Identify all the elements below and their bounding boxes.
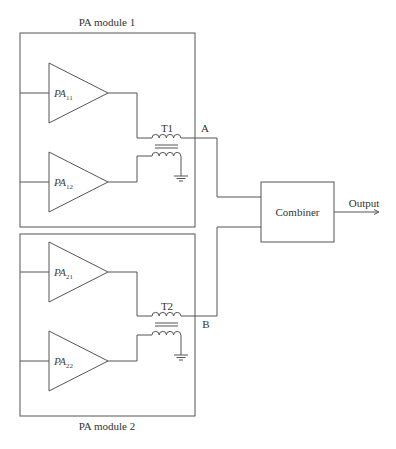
primary-coil-icon xyxy=(152,134,181,138)
pa22-label: PA22 xyxy=(53,355,74,370)
module-1-label: PA module 1 xyxy=(79,16,135,28)
wire-b-to-combiner xyxy=(217,227,261,316)
t2-label: T2 xyxy=(161,300,173,312)
module-2-box xyxy=(20,234,195,416)
pa-combiner-diagram: PA module 1 PA11 PA12 T1 xyxy=(0,0,396,449)
pa-module-1: PA module 1 PA11 PA12 T1 xyxy=(20,16,217,227)
combiner-label: Combiner xyxy=(276,206,320,218)
amplifier-pa22: PA22 xyxy=(49,331,108,391)
ground-icon xyxy=(174,355,188,360)
node-a-label: A xyxy=(201,122,209,134)
transformer-t1: T1 xyxy=(152,122,188,181)
secondary-coil-icon xyxy=(152,152,181,156)
amplifier-pa12: PA12 xyxy=(49,152,108,212)
amplifier-pa21: PA21 xyxy=(49,242,108,302)
pa-module-2: PA module 2 PA21 PA22 T2 B xyxy=(20,234,217,432)
secondary-coil-icon xyxy=(152,331,181,335)
combiner: Combiner xyxy=(261,182,334,242)
amplifier-pa11: PA11 xyxy=(49,63,108,123)
pa12-label: PA12 xyxy=(53,176,74,191)
pa22-output-wire xyxy=(108,335,152,361)
ground-icon xyxy=(174,176,188,181)
module-2-label: PA module 2 xyxy=(79,420,135,432)
output-label: Output xyxy=(349,197,380,209)
pa11-output-wire xyxy=(108,93,152,138)
output: Output xyxy=(334,197,379,215)
primary-coil-icon xyxy=(152,312,181,316)
transformer-t2: T2 xyxy=(152,300,188,360)
pa21-label: PA21 xyxy=(53,266,74,281)
t1-label: T1 xyxy=(161,122,173,134)
pa11-label: PA11 xyxy=(53,87,73,102)
pa12-output-wire xyxy=(108,156,152,182)
wire-a-to-combiner xyxy=(217,138,261,197)
node-b-label: B xyxy=(202,318,209,330)
pa21-output-wire xyxy=(108,272,152,316)
